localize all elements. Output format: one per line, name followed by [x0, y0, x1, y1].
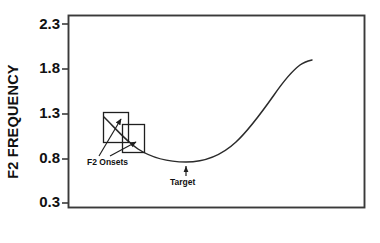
plot-frame — [69, 16, 365, 208]
annotation-f2-onsets-label: F2 Onsets — [87, 158, 128, 167]
chart-figure: F2 FREQUENCY 2.3 1.8 1.3 0.8 0.3 — [0, 0, 380, 243]
annotation-target-label: Target — [170, 178, 195, 187]
f2-trajectory-curve — [104, 60, 312, 162]
f2-onsets-leader-1 — [99, 119, 121, 156]
plot-area — [0, 0, 380, 243]
